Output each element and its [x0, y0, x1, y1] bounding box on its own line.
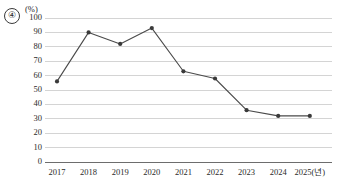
data-point [55, 79, 59, 83]
plot-area: 1009080706050403020100 20172018201920202… [0, 0, 342, 186]
data-point [308, 114, 312, 118]
data-point [87, 30, 91, 34]
data-point [276, 114, 280, 118]
data-point [150, 26, 154, 30]
series-point-markers [55, 26, 312, 118]
data-point [245, 108, 249, 112]
data-series-svg [0, 0, 342, 186]
data-point [213, 76, 217, 80]
data-point [118, 42, 122, 46]
chart-figure: ④ (%) 1009080706050403020100 20172018201… [0, 0, 342, 186]
data-point [181, 69, 185, 73]
